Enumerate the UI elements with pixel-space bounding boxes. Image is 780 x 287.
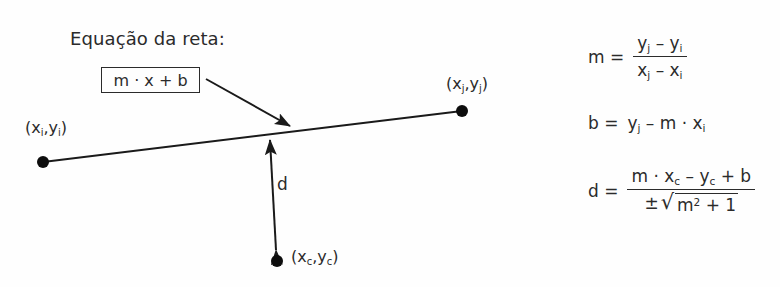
pj-y: y [470,74,479,93]
formula-intercept: b = yj – m · xi [588,113,706,133]
radicand: m2 + 1 [675,193,738,215]
pc-x: x [297,247,306,266]
formula-slope: m = yj – yi xj – xi [588,33,687,80]
dist-den-plus: + [706,195,720,215]
dist-num-plus: + [721,166,735,186]
pi-y-sub: i [58,127,61,138]
diagram-title: Equação da reta: [70,30,225,48]
formula-slope-numerator: yj – yi [633,33,686,56]
slope-num-sub1: j [647,42,650,54]
plus-minus-sign: ± [644,193,658,213]
equation-dot: · [134,71,139,90]
point-i-dot [37,156,49,168]
dist-num-x-sub: c [674,175,680,187]
point-j-dot [456,105,468,117]
slope-num-y1: y [637,33,647,53]
formula-intercept-rhs: yj – m · xi [627,113,705,133]
slope-den-x1: x [637,60,647,80]
pi-x: x [31,118,40,137]
pj-close: ) [482,74,488,93]
pc-y-sub: c [327,256,332,267]
figure-canvas: Equação da reta: m · x + b (xi,yi) (xj,y… [0,0,780,287]
intercept-m: m [660,113,677,133]
pi-close: ) [61,118,67,137]
regression-line [43,111,462,162]
dist-num-minus: – [686,166,695,186]
distance-arrow [270,140,276,250]
line-equation-text: m · x + b [113,71,187,90]
slope-den-minus: – [656,60,665,80]
formula-slope-denominator: xj – xi [633,56,686,80]
intercept-x-sub: i [703,122,706,134]
line-equation-box: m · x + b [101,67,200,93]
formula-slope-lhs: m = [588,47,624,67]
pc-close: ) [332,247,338,266]
dist-den-one: 1 [725,195,736,215]
formula-distance-lhs: d = [588,181,618,201]
formula-slope-fraction: yj – yi xj – xi [633,33,686,80]
point-i-label: (xi,yi) [25,120,67,136]
slope-den-x2: x [670,60,680,80]
dist-den-exp: 2 [694,196,701,208]
intercept-y: y [627,113,637,133]
slope-num-sub2: i [680,42,683,54]
formula-intercept-lhs: b = [588,113,618,133]
dist-num-m: m [631,166,648,186]
formula-distance-fraction: m · xc – yc + b ± √ m2 + 1 [627,166,755,215]
equation-pointer-arrow [206,79,290,126]
point-c-dot [271,255,283,267]
distance-label: d [277,176,288,193]
formula-distance-numerator: m · xc – yc + b [627,166,755,189]
slope-den-sub2: i [680,69,683,81]
dist-num-x: x [664,166,674,186]
point-c-label: (xc,yc) [291,249,338,265]
pc-y: y [317,247,326,266]
radical-icon: √ [661,193,674,211]
slope-den-sub1: j [647,69,650,81]
equation-plus: + [159,71,172,90]
formula-distance-denominator: ± √ m2 + 1 [627,189,755,215]
pj-y-sub: j [479,83,482,94]
intercept-x: x [693,113,703,133]
dist-den-m: m [677,195,694,215]
slope-num-minus: – [656,33,665,53]
pi-y: y [49,118,58,137]
dist-num-dot: · [653,166,658,186]
formula-distance: d = m · xc – yc + b ± √ m2 + 1 [588,166,755,215]
intercept-dot: · [682,113,687,133]
square-root-expression: ± √ m2 + 1 [644,193,738,215]
intercept-y-sub: j [638,122,641,134]
dist-num-y-sub: c [709,175,715,187]
dist-num-y: y [699,166,709,186]
intercept-minus: – [646,113,655,133]
equation-x: x [144,71,153,90]
pc-x-sub: c [307,256,312,267]
dist-num-b: b [740,166,751,186]
equation-m: m [113,71,129,90]
slope-num-y2: y [670,33,680,53]
point-j-label: (xj,yj) [446,76,488,92]
equation-b: b [177,71,187,90]
pj-x: x [452,74,461,93]
